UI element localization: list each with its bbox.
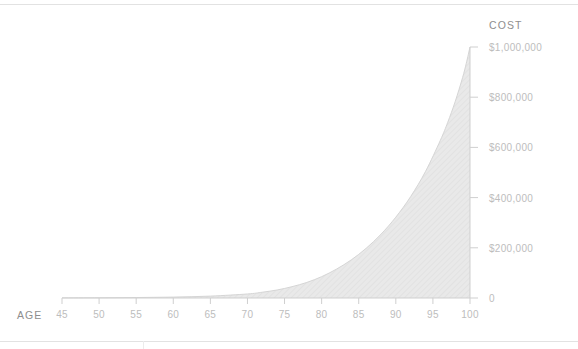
- y-axis-ticks: [470, 47, 478, 298]
- x-tick-label: 45: [56, 309, 68, 320]
- y-tick-label: $200,000: [489, 242, 533, 253]
- y-tick-label: 0: [489, 293, 495, 304]
- y-axis-group: [470, 47, 478, 298]
- x-tick-label: 95: [427, 309, 439, 320]
- x-tick-label: 90: [390, 309, 402, 320]
- x-axis-ticks: [62, 298, 470, 304]
- x-tick-label: 85: [353, 309, 365, 320]
- x-tick-label: 50: [93, 309, 105, 320]
- x-tick-label: 100: [461, 309, 479, 320]
- y-axis-title: COST: [489, 19, 523, 31]
- x-tick-label: 70: [242, 309, 254, 320]
- x-tick-label: 75: [279, 309, 291, 320]
- y-tick-label: $800,000: [489, 92, 533, 103]
- x-tick-label: 55: [130, 309, 142, 320]
- area-series-group: [62, 47, 470, 298]
- y-tick-label: $600,000: [489, 142, 533, 153]
- x-tick-label: 60: [167, 309, 179, 320]
- y-tick-label: $400,000: [489, 192, 533, 203]
- x-axis-title: AGE: [17, 309, 42, 321]
- chart-figure: COST AGE 4550556065707580859095100 0$200…: [0, 0, 578, 349]
- cost-area-fill: [62, 47, 470, 298]
- y-tick-label: $1,000,000: [489, 42, 542, 53]
- x-tick-label: 80: [316, 309, 328, 320]
- x-tick-label: 65: [204, 309, 216, 320]
- x-axis-group: [62, 298, 470, 304]
